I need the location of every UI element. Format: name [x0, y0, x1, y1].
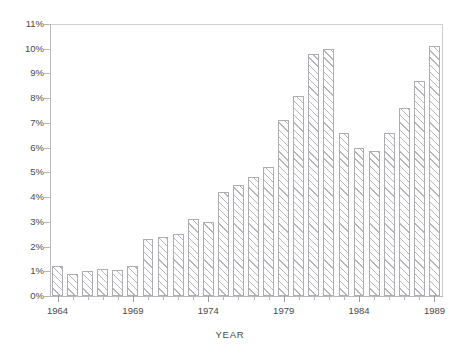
- bar: [67, 274, 78, 296]
- y-tick-label: 11%: [0, 19, 44, 29]
- y-tick-label: 3%: [0, 217, 44, 227]
- bar: [143, 239, 154, 296]
- bar: [308, 54, 319, 296]
- x-tick-label: 1974: [188, 306, 228, 316]
- bar: [414, 81, 425, 296]
- bar: [248, 177, 259, 296]
- x-tick-minor: [73, 296, 74, 300]
- bar: [158, 237, 169, 296]
- x-tick-major: [284, 296, 285, 302]
- bar: [384, 133, 395, 296]
- y-tick-label: 5%: [0, 167, 44, 177]
- y-tick-label: 6%: [0, 143, 44, 153]
- x-tick-minor: [329, 296, 330, 300]
- y-tick-label: 8%: [0, 93, 44, 103]
- x-tick-minor: [374, 296, 375, 300]
- y-tick-label: 1%: [0, 266, 44, 276]
- bar: [188, 219, 199, 296]
- x-tick-minor: [254, 296, 255, 300]
- x-tick-major: [359, 296, 360, 302]
- bar: [97, 269, 108, 296]
- x-tick-minor: [223, 296, 224, 300]
- y-tick: [44, 296, 50, 297]
- x-tick-minor: [419, 296, 420, 300]
- bar-chart: 0%1%2%3%4%5%6%7%8%9%10%11% 1964196919741…: [0, 0, 460, 364]
- bar: [429, 46, 440, 296]
- y-tick-label: 0%: [0, 291, 44, 301]
- x-tick-major: [434, 296, 435, 302]
- bar: [112, 270, 123, 296]
- x-tick-label: 1969: [113, 306, 153, 316]
- y-tick-label: 4%: [0, 192, 44, 202]
- bar: [203, 222, 214, 296]
- bar: [293, 96, 304, 296]
- x-tick-minor: [148, 296, 149, 300]
- x-tick-major: [58, 296, 59, 302]
- x-tick-minor: [103, 296, 104, 300]
- y-tick-label: 9%: [0, 68, 44, 78]
- x-tick-minor: [238, 296, 239, 300]
- x-axis-title: YEAR: [0, 329, 460, 340]
- x-tick-minor: [299, 296, 300, 300]
- bar-series: [50, 24, 442, 296]
- bar: [339, 133, 350, 296]
- top-caption: [60, 0, 400, 9]
- bar: [233, 185, 244, 296]
- x-tick-minor: [193, 296, 194, 300]
- bar: [399, 108, 410, 296]
- bar: [278, 120, 289, 296]
- bar: [354, 148, 365, 296]
- x-tick-minor: [118, 296, 119, 300]
- x-tick-minor: [163, 296, 164, 300]
- plot-right-border: [442, 24, 443, 297]
- x-tick-minor: [389, 296, 390, 300]
- bar: [369, 151, 380, 296]
- x-axis-line: [50, 296, 443, 297]
- x-tick-major: [208, 296, 209, 302]
- x-tick-label: 1989: [414, 306, 454, 316]
- bar: [218, 192, 229, 296]
- bar: [127, 266, 138, 296]
- x-tick-label: 1984: [339, 306, 379, 316]
- x-tick-minor: [88, 296, 89, 300]
- y-tick-label: 10%: [0, 44, 44, 54]
- y-tick-label: 2%: [0, 242, 44, 252]
- x-tick-major: [133, 296, 134, 302]
- x-tick-label: 1979: [264, 306, 304, 316]
- bar: [173, 234, 184, 296]
- x-tick-label: 1964: [38, 306, 78, 316]
- y-tick-label: 7%: [0, 118, 44, 128]
- x-tick-minor: [404, 296, 405, 300]
- x-tick-minor: [178, 296, 179, 300]
- x-tick-minor: [269, 296, 270, 300]
- bar: [82, 271, 93, 296]
- bar: [323, 49, 334, 296]
- bar: [52, 266, 63, 296]
- x-tick-minor: [314, 296, 315, 300]
- bar: [263, 167, 274, 296]
- x-tick-minor: [344, 296, 345, 300]
